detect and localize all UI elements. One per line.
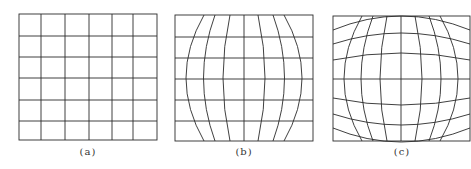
panel-c-grid: [0, 0, 471, 145]
caption-b: (b): [224, 146, 264, 157]
caption-c: (c): [382, 146, 422, 157]
caption-a: (a): [68, 146, 108, 157]
barrel-distortion-grid-diagram: [0, 0, 471, 145]
